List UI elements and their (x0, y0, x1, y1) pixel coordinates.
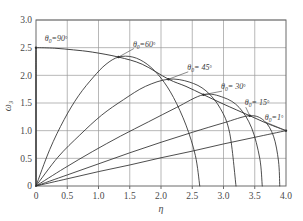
trajectory-curve-15deg (36, 116, 280, 186)
ytick-label-2.5: 2.5 (20, 43, 32, 53)
apex-dot-90deg (35, 46, 37, 48)
xtick-label-0.5: 0.5 (61, 191, 73, 201)
leader-line-30deg (204, 91, 223, 95)
ytick-label-1.5: 1.5 (20, 98, 32, 108)
x-axis-tick-labels: 00.51.01.52.02.53.03.54.0 (34, 191, 293, 201)
trajectory-curve-30deg (36, 94, 262, 186)
apex-dot-15deg (249, 115, 251, 117)
ytick-label-1.0: 1.0 (20, 126, 32, 136)
chart-figure: 00.51.01.52.02.53.0 00.51.01.52.02.53.03… (0, 0, 303, 221)
xtick-label-3.0: 3.0 (218, 191, 230, 201)
xtick-label-4.0: 4.0 (280, 191, 292, 201)
xtick-label-1.5: 1.5 (124, 191, 136, 201)
xtick-label-2.5: 2.5 (186, 191, 198, 201)
ytick-label-2.0: 2.0 (20, 71, 32, 81)
ytick-label-0: 0 (27, 181, 32, 191)
y-axis-tick-labels: 00.51.01.52.02.53.0 (20, 15, 32, 191)
series-label-60deg: θ0=60° (133, 40, 156, 50)
xtick-label-2.0: 2.0 (155, 191, 167, 201)
xtick-label-3.5: 3.5 (249, 191, 261, 201)
trajectory-curve-45deg (36, 79, 236, 186)
x-axis-title: η (159, 203, 164, 214)
series-label-15deg: θ0= 15° (245, 98, 270, 108)
series-label-45deg: θ0= 45° (187, 63, 212, 73)
series-label-1deg: θ0=1° (265, 113, 284, 123)
projectile-trajectory-chart: 00.51.01.52.02.53.0 00.51.01.52.02.53.03… (0, 0, 303, 221)
y-axis-title: ω₃ (2, 100, 13, 111)
xtick-label-1.0: 1.0 (93, 191, 105, 201)
series-label-30deg: θ0= 30° (221, 82, 246, 92)
xtick-label-0: 0 (34, 191, 39, 201)
ytick-label-3.0: 3.0 (20, 15, 32, 25)
ytick-label-0.5: 0.5 (20, 154, 32, 164)
series-label-90deg: θ0=90° (45, 34, 68, 44)
